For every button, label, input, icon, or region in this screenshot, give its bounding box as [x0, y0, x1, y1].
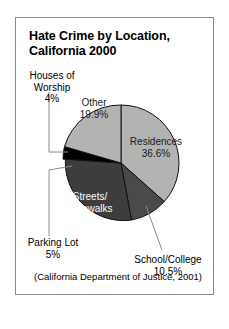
chart-frame: Hate Crime by Location, California 2000	[15, 17, 214, 295]
pie-label-houses-of-worship: Houses of Worship 4%	[21, 70, 83, 105]
pie-chart: Residences 36.6% Other 19.9% Streets/ Si…	[16, 18, 213, 294]
pie-label-parking-lot: Parking Lot 5%	[18, 237, 88, 260]
pie-label-residences: Residences 36.6%	[119, 136, 193, 159]
pie-label-streets-sidewalks: Streets/ Sidewalks 24%	[57, 191, 123, 226]
source-note: (California Department of Justice, 2001)	[28, 271, 208, 282]
leader-line-school-college	[146, 206, 162, 250]
